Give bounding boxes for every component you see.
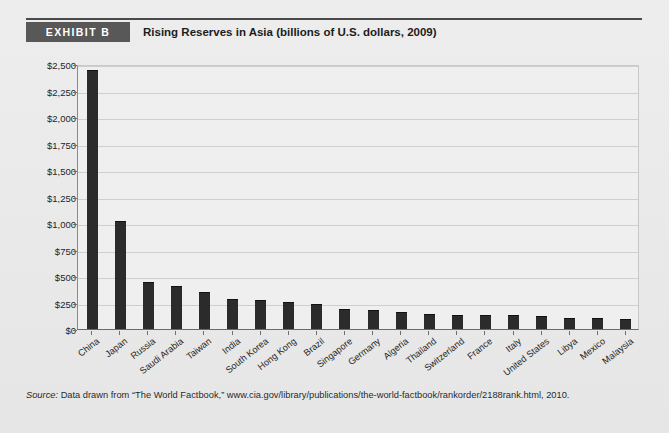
bar-slot [275, 64, 303, 329]
y-axis-tick-label: $1,500 [16, 166, 76, 177]
x-axis-tick [344, 331, 345, 335]
bar-slot [134, 64, 162, 329]
y-axis-tick [73, 330, 77, 331]
bar [592, 318, 603, 329]
bar [311, 304, 322, 329]
x-axis-tick [541, 331, 542, 335]
x-axis-tick [147, 331, 148, 335]
bar-slot [190, 64, 218, 329]
x-axis-tick [625, 331, 626, 335]
y-axis-tick-label: $1,750 [16, 139, 76, 150]
bar-slot [162, 64, 190, 329]
bar-slot [219, 64, 247, 329]
y-axis-tick [73, 171, 77, 172]
bar [564, 318, 575, 329]
x-axis-tick [456, 331, 457, 335]
x-axis-tick [400, 331, 401, 335]
bar [171, 286, 182, 329]
x-axis-tick [260, 331, 261, 335]
x-axis-tick [597, 331, 598, 335]
x-axis-tick [372, 331, 373, 335]
page-title: Rising Reserves in Asia (billions of U.S… [143, 22, 437, 42]
bar [480, 315, 491, 329]
y-axis-tick [73, 145, 77, 146]
bar [620, 319, 631, 329]
y-axis-tick-label: $1,250 [16, 192, 76, 203]
bar [339, 309, 350, 329]
y-axis-tick [73, 224, 77, 225]
y-axis-tick-label: $750 [16, 245, 76, 256]
y-axis-tick-label: $1,000 [16, 219, 76, 230]
plot-area [77, 65, 639, 330]
bar-slot [359, 64, 387, 329]
source-label: Source: [26, 390, 58, 400]
bar-slot [584, 64, 612, 329]
x-axis-tick [175, 331, 176, 335]
bar-slot [528, 64, 556, 329]
x-axis-tick [513, 331, 514, 335]
bar [199, 292, 210, 329]
x-axis-tick [316, 331, 317, 335]
x-axis-tick [119, 331, 120, 335]
bar [115, 221, 126, 329]
x-axis-tick [232, 331, 233, 335]
y-axis-tick-label: $2,250 [16, 86, 76, 97]
bar-slot [303, 64, 331, 329]
x-axis-tick [288, 331, 289, 335]
y-axis-tick-label: $250 [16, 298, 76, 309]
bar-slot [247, 64, 275, 329]
bar-slot [387, 64, 415, 329]
bar [508, 315, 519, 329]
exhibit-header: EXHIBIT B Rising Reserves in Asia (billi… [26, 20, 642, 46]
bar [227, 299, 238, 329]
bar [87, 70, 98, 329]
bar [424, 314, 435, 329]
source-note: Source: Data drawn from “The World Factb… [26, 390, 642, 400]
y-axis-tick-label: $2,500 [16, 60, 76, 71]
bar-slot [78, 64, 106, 329]
y-axis-tick [73, 65, 77, 66]
bar-series [78, 66, 638, 329]
y-axis-tick [73, 198, 77, 199]
y-axis-tick-label: $2,000 [16, 113, 76, 124]
bar-slot [556, 64, 584, 329]
y-axis-tick [73, 118, 77, 119]
x-axis-tick [484, 331, 485, 335]
x-axis-tick [569, 331, 570, 335]
bar-slot [500, 64, 528, 329]
chart-container: $0$250$500$750$1,000$1,250$1,500$1,750$2… [26, 52, 642, 384]
bar [283, 302, 294, 329]
y-axis-tick [73, 277, 77, 278]
bar-slot [612, 64, 640, 329]
bar [255, 300, 266, 329]
bar [396, 312, 407, 329]
y-axis-tick [73, 92, 77, 93]
y-axis-tick-label: $500 [16, 272, 76, 283]
bar [536, 316, 547, 329]
bar [452, 315, 463, 329]
bar-slot [106, 64, 134, 329]
y-axis-tick-label: $0 [16, 325, 76, 336]
x-axis-tick [203, 331, 204, 335]
source-text: Data drawn from “The World Factbook,” ww… [58, 390, 569, 400]
x-axis-tick [428, 331, 429, 335]
bar-slot [443, 64, 471, 329]
exhibit-page: EXHIBIT B Rising Reserves in Asia (billi… [0, 0, 669, 433]
y-axis-tick [73, 251, 77, 252]
x-axis-tick [91, 331, 92, 335]
bar [143, 282, 154, 329]
bar-slot [471, 64, 499, 329]
exhibit-badge: EXHIBIT B [26, 22, 130, 42]
bar-slot [331, 64, 359, 329]
bar-slot [415, 64, 443, 329]
bar [368, 310, 379, 329]
y-axis-tick [73, 304, 77, 305]
